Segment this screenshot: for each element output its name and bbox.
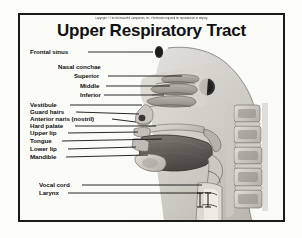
label-nasal-conchae: Nasal conchae [58, 63, 101, 70]
label-anterior-naris: Anterior naris (nostril) [30, 115, 94, 122]
label-upper-lip: Upper lip [30, 129, 56, 136]
label-hard-palate: Hard palate [30, 122, 63, 129]
label-vocal-cord: Vocal cord [39, 181, 70, 188]
label-lower-lip: Lower lip [30, 145, 57, 152]
label-tongue: Tongue [30, 137, 52, 144]
label-superior-concha: Superior [74, 72, 99, 79]
label-middle-concha: Middle [80, 82, 99, 89]
label-vestibule: Vestibule [30, 101, 57, 108]
label-guard-hairs: Guard hairs [30, 108, 64, 115]
label-mandible: Mandible [30, 153, 56, 160]
label-layer: Frontal sinus Nasal conchae Superior Mid… [20, 15, 283, 220]
figure-root: Copyright © The McGraw-Hill Companies, I… [0, 0, 302, 238]
label-inferior-concha: Inferior [80, 91, 101, 98]
label-larynx: Larynx [39, 189, 59, 196]
figure-frame: Copyright © The McGraw-Hill Companies, I… [18, 13, 285, 222]
label-frontal-sinus: Frontal sinus [30, 48, 68, 55]
